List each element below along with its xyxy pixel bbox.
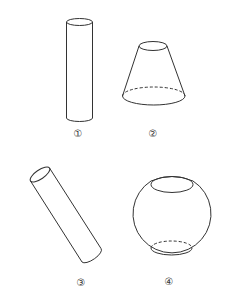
shape-1-vertical-cylinder	[67, 19, 93, 122]
label-shape-4: ④	[165, 277, 174, 287]
label-shape-2: ②	[149, 129, 158, 139]
label-shape-3: ③	[77, 278, 86, 288]
shape-2-frustum	[123, 42, 186, 106]
shape-3-tilted-cylinder	[28, 164, 102, 262]
geometric-solids-figure	[0, 0, 225, 306]
shape-4-cut-sphere	[133, 177, 211, 256]
label-shape-1: ①	[74, 129, 83, 139]
